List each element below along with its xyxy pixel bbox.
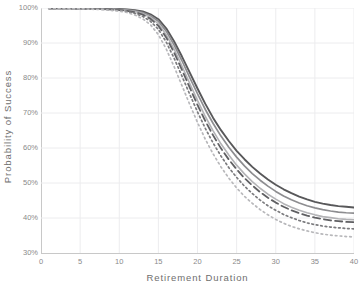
x-tick-label: 40	[350, 258, 358, 266]
x-tick-label: 0	[39, 258, 43, 266]
y-tick-label: 40%	[12, 214, 38, 222]
x-axis-title: Retirement Duration	[41, 272, 354, 283]
x-tick-label: 10	[115, 258, 123, 266]
y-tick-label: 60%	[12, 144, 38, 152]
series-line-series-5	[49, 8, 354, 229]
y-tick-label: 70%	[12, 109, 38, 117]
x-tick-label: 25	[232, 258, 240, 266]
x-tick-label: 35	[311, 258, 319, 266]
y-tick-label: 100%	[12, 4, 38, 12]
series-line-series-2	[49, 8, 354, 213]
y-tick-label: 90%	[12, 39, 38, 47]
y-tick-label: 30%	[12, 249, 38, 257]
y-tick-label: 50%	[12, 179, 38, 187]
series-line-series-4	[49, 8, 354, 222]
x-axis-line	[41, 253, 354, 254]
y-tick-label: 80%	[12, 74, 38, 82]
x-tick-label: 20	[193, 258, 201, 266]
plot-area	[41, 8, 354, 253]
x-axis-tick-labels: 0510152025303540	[0, 258, 364, 270]
retirement-success-chart: Probability of Success 30%40%50%60%70%80…	[0, 0, 364, 301]
x-tick-label: 15	[154, 258, 162, 266]
x-tick-label: 30	[272, 258, 280, 266]
x-tick-label: 5	[78, 258, 82, 266]
y-axis-tick-labels: 30%40%50%60%70%80%90%100%	[8, 0, 38, 253]
series-lines	[41, 8, 354, 253]
